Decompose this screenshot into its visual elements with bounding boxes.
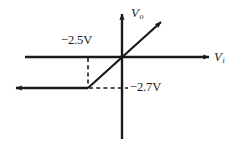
- transfer-characteristic-figure: Vo Vi −2.5V −2.7V: [0, 0, 239, 142]
- output-low-voltage-label: −2.7V: [130, 81, 161, 94]
- linear-ramp-branch-line: [88, 22, 161, 88]
- threshold-voltage-label: −2.5V: [61, 34, 92, 47]
- output-axis-label-subscript: o: [139, 12, 144, 21]
- input-axis-label-subscript: i: [222, 56, 225, 65]
- output-axis-label-text: V: [131, 5, 139, 20]
- output-axis-label: Vo: [131, 6, 143, 21]
- input-axis-label: Vi: [214, 50, 225, 65]
- input-axis-label-text: V: [214, 49, 222, 64]
- transfer-characteristic-plot: [0, 0, 239, 142]
